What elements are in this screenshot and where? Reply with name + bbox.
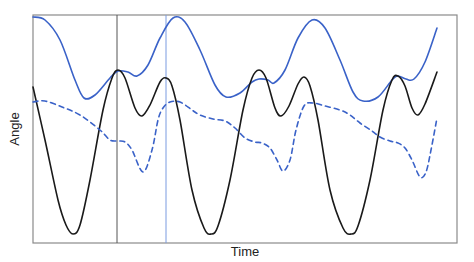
x-axis-label: Time: [0, 244, 474, 259]
series-blue-dashed: [33, 101, 437, 178]
series-black-solid: [33, 70, 437, 234]
vertical-markers: [117, 15, 166, 243]
line-chart: [0, 0, 474, 262]
y-axis-label: Angle: [7, 112, 22, 145]
plot-frame: [33, 15, 457, 243]
series-blue-solid: [33, 17, 437, 102]
data-series: [33, 17, 437, 235]
